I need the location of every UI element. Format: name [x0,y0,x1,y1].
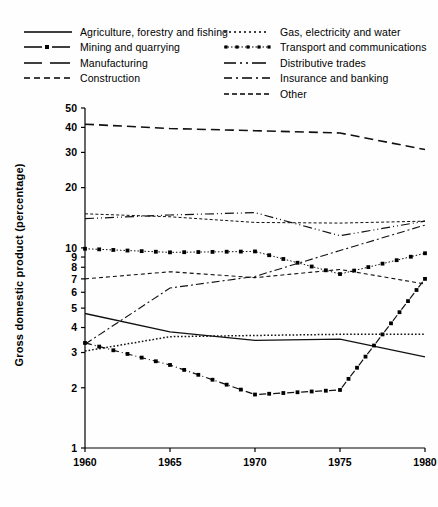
legend-item: Agriculture, forestry and fishing [22,24,222,40]
y-axis-tick-label: 6 [71,286,77,298]
y-axis-tick-label: 8 [71,261,77,273]
legend-item: Transport and communications [222,40,436,56]
series-marker [126,352,130,356]
legend-line-sample-icon [22,26,74,38]
legend-item-label: Transport and communications [280,41,427,53]
x-axis-tick-label: 1960 [73,456,97,468]
series-marker [196,373,200,377]
series-marker [83,247,87,251]
series-line [85,214,425,223]
series-marker [154,359,158,363]
legend-line-sample-icon [222,72,274,84]
y-axis-tick-label: 2 [71,382,77,394]
series-marker [239,388,243,392]
series-marker [281,257,285,261]
series-marker [182,368,186,372]
legend-item: Insurance and banking [222,71,436,87]
x-axis-tick-label: 1970 [243,456,267,468]
y-axis-tick-label: 4 [71,321,77,333]
series-marker [372,344,376,348]
y-axis-tick-label: 30 [65,146,77,158]
legend-item: Construction [22,71,222,87]
series-marker [140,356,144,360]
legend-item-label: Manufacturing [80,57,148,69]
series-marker [347,377,351,381]
legend-column-right: Gas, electricity and waterTransport and … [222,24,436,102]
series-marker [355,366,359,370]
series-marker [140,249,144,253]
legend-item: Gas, electricity and water [222,24,436,40]
legend-item: Manufacturing [22,55,222,71]
y-axis-tick-label: 50 [65,102,77,114]
legend-line-sample-icon [22,41,74,53]
series-marker [310,265,314,269]
series-marker [239,250,243,254]
series-marker [211,250,215,254]
series-marker [409,255,413,259]
legend-line-sample-icon [22,57,74,69]
series-marker [168,363,172,367]
legend-item-label: Agriculture, forestry and fishing [80,26,228,38]
legend-line-sample-icon [222,88,274,100]
y-axis-tick-label: 20 [65,181,77,193]
series-marker [111,248,115,252]
legend-column-left: Agriculture, forestry and fishingMining … [22,24,222,86]
legend-line-sample-icon [22,72,74,84]
series-marker [366,265,370,269]
series-marker [253,250,257,254]
series-marker [338,272,342,276]
x-axis-tick-label: 1980 [413,456,437,468]
series-line [85,225,425,344]
legend-item-label: Distributive trades [280,57,366,69]
series-marker [395,258,399,262]
legend-item: Mining and quarrying [22,40,222,56]
series-marker [182,250,186,254]
series-line [85,314,425,357]
series-line [85,213,425,236]
legend-line-sample-icon [222,41,274,53]
series-line [85,124,425,149]
series-marker [415,288,419,292]
series-marker [338,388,342,392]
legend-item-label: Mining and quarrying [80,41,180,53]
y-axis-tick-label: 1 [71,442,77,454]
series-marker [267,392,271,396]
series-marker [225,250,229,254]
series-line [85,334,425,351]
series-marker [423,251,427,255]
legend-item-label: Construction [80,72,140,84]
series-marker [324,389,328,393]
series-line [85,279,425,395]
series-marker [97,247,101,251]
series-marker [406,299,410,303]
series-marker [196,250,200,254]
legend-item: Distributive trades [222,55,436,71]
y-axis-tick-label: 5 [71,302,77,314]
legend-line-sample-icon [222,26,274,38]
x-axis-tick-label: 1975 [328,456,352,468]
legend-item-label: Other [280,88,307,100]
series-marker [253,393,257,397]
series-marker [352,269,356,273]
series-marker [398,310,402,314]
series-marker [211,378,215,382]
series-marker [364,355,368,359]
legend-line-sample-icon [222,57,274,69]
legend-item-label: Insurance and banking [280,72,388,84]
series-marker [324,268,328,272]
series-marker [126,249,130,253]
series-marker [423,277,427,281]
series-marker [168,250,172,254]
series-marker [310,390,314,394]
x-axis-tick-label: 1965 [158,456,182,468]
legend-item-label: Gas, electricity and water [280,26,400,38]
series-marker [381,262,385,266]
y-axis-tick-label: 7 [71,273,77,285]
y-axis-tick-label: 40 [65,121,77,133]
chart-legend: Agriculture, forestry and fishingMining … [0,24,438,102]
chart-svg: 504030201098765432119601965197019751980 [0,100,438,472]
series-marker [296,390,300,394]
chart-page: Agriculture, forestry and fishingMining … [0,0,438,507]
series-marker [154,250,158,254]
series-marker [281,391,285,395]
